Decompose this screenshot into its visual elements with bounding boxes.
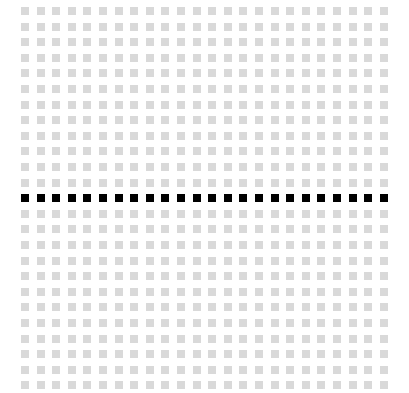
grid-cell [224,319,232,327]
grid-cell [83,241,91,249]
grid-cell [146,85,154,93]
grid-cell [271,210,279,218]
grid-cell [130,319,138,327]
grid-cell [380,335,388,343]
grid-cell [161,303,169,311]
active-grid-cell [68,194,76,202]
grid-cell [364,257,372,265]
grid-cell [193,381,201,389]
active-grid-cell [177,194,185,202]
grid-cell [83,101,91,109]
grid-cell [161,241,169,249]
grid-cell [380,179,388,187]
grid-cell [271,257,279,265]
grid-cell [208,225,216,233]
grid-cell [37,366,45,374]
grid-cell [52,132,60,140]
grid-cell [177,381,185,389]
grid-cell [161,272,169,280]
grid-cell [37,69,45,77]
grid-cell [177,303,185,311]
grid-cell [21,381,29,389]
grid-cell [302,335,310,343]
grid-cell [83,303,91,311]
grid-cell [286,38,294,46]
grid-cell [130,335,138,343]
grid-cell [130,85,138,93]
grid-cell [239,303,247,311]
grid-cell [68,303,76,311]
grid-cell [364,179,372,187]
grid-cell [115,7,123,15]
grid-cell [161,7,169,15]
grid-cell [317,69,325,77]
grid-cell [68,241,76,249]
grid-cell [364,163,372,171]
grid-cell [177,132,185,140]
grid-cell [333,179,341,187]
grid-cell [130,101,138,109]
grid-cell [317,257,325,265]
grid-cell [364,272,372,280]
grid-cell [37,288,45,296]
grid-cell [193,350,201,358]
grid-cell [37,101,45,109]
grid-cell [380,225,388,233]
grid-cell [37,23,45,31]
grid-cell [271,116,279,124]
grid-cell [193,303,201,311]
dot-grid [0,0,409,393]
grid-cell [161,381,169,389]
grid-cell [161,147,169,155]
active-grid-cell [130,194,138,202]
grid-cell [333,147,341,155]
grid-cell [286,116,294,124]
grid-cell [317,288,325,296]
grid-cell [271,7,279,15]
grid-cell [317,7,325,15]
active-grid-cell [333,194,341,202]
grid-cell [99,7,107,15]
grid-cell [115,225,123,233]
grid-cell [364,7,372,15]
grid-cell [271,288,279,296]
grid-cell [239,257,247,265]
active-grid-cell [271,194,279,202]
grid-cell [208,54,216,62]
grid-cell [255,7,263,15]
grid-cell [146,225,154,233]
grid-cell [99,303,107,311]
grid-cell [302,132,310,140]
grid-cell [52,303,60,311]
grid-cell [224,335,232,343]
grid-cell [271,54,279,62]
grid-cell [317,23,325,31]
grid-cell [317,38,325,46]
grid-cell [271,366,279,374]
grid-cell [130,257,138,265]
grid-cell [146,69,154,77]
grid-cell [286,303,294,311]
grid-cell [239,69,247,77]
grid-cell [146,147,154,155]
grid-cell [21,335,29,343]
grid-cell [286,272,294,280]
grid-cell [161,257,169,265]
grid-cell [99,116,107,124]
grid-cell [146,381,154,389]
grid-cell [255,225,263,233]
grid-cell [99,23,107,31]
grid-cell [333,23,341,31]
grid-cell [271,303,279,311]
grid-cell [271,225,279,233]
grid-cell [37,225,45,233]
grid-cell [68,225,76,233]
grid-cell [99,132,107,140]
grid-cell [21,116,29,124]
grid-cell [115,147,123,155]
grid-cell [255,257,263,265]
active-grid-cell [161,194,169,202]
grid-cell [177,179,185,187]
grid-cell [177,257,185,265]
active-grid-cell [208,194,216,202]
